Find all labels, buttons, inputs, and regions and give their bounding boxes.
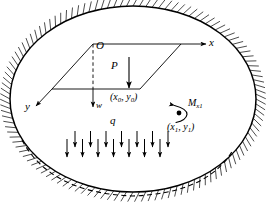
moment-application-point bbox=[177, 111, 182, 116]
w-axis-label: w bbox=[96, 101, 102, 110]
coord-close-paren: ) bbox=[134, 91, 137, 102]
distributed-load-label: q bbox=[110, 115, 116, 126]
origin-label: O bbox=[96, 40, 104, 51]
moment-subscript: x1 bbox=[196, 102, 202, 109]
plate-load-diagram: O x y w P q (x0, y0) Mx1 (x1, y1) bbox=[0, 0, 266, 202]
moment-coordinates: (x1, y1) bbox=[167, 122, 194, 133]
point-load-coordinates: (x0, y0) bbox=[110, 92, 137, 103]
moment-label: Mx1 bbox=[188, 98, 203, 109]
point-load-label: P bbox=[111, 60, 118, 71]
moment-coord-close-paren: ) bbox=[191, 121, 194, 132]
y-axis-label: y bbox=[25, 101, 30, 112]
x-axis-label: x bbox=[209, 37, 214, 48]
